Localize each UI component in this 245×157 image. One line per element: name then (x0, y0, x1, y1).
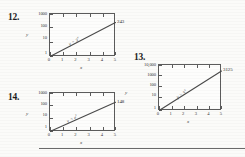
textbook-page: 12. y 1000 100 10 1 (0, 0, 245, 157)
y-tick-label-1-14: 1 (29, 125, 47, 130)
y-tick-label-1-12: 1 (29, 51, 47, 56)
y-tick-label-10-13: 10 (130, 93, 156, 98)
x-tick-label-13-1: 1 (166, 112, 176, 117)
x-tick-label-14-5: 5 (110, 133, 120, 138)
x-tick-label-14-4: 4 (97, 133, 107, 138)
x-tick-label-12-3: 3 (84, 58, 94, 63)
end-value-label-13: 3125 (223, 67, 233, 72)
x-tick-label-12-1: 1 (57, 58, 67, 63)
x-tick-label-14-1: 1 (57, 133, 67, 138)
curve-12 (50, 14, 116, 57)
x-tick-label-12-4: 4 (97, 58, 107, 63)
x-tick-label-13-0: 0 (153, 112, 163, 117)
y-tick-label-10-14: 10 (29, 113, 47, 118)
plot-area-14: y = ex (49, 92, 115, 131)
y-tick-label-1000-14: 1000 (29, 91, 47, 96)
x-tick-label-14-0: 0 (44, 133, 54, 138)
curve-13 (159, 65, 222, 111)
end-value-label-14: 148 (117, 99, 124, 104)
y-tick-label-10-12: 10 (29, 36, 47, 41)
x-tick-label-14-3: 3 (84, 133, 94, 138)
x-tick-label-13-4: 4 (203, 112, 213, 117)
x-tick-label-13-5: 5 (216, 112, 226, 117)
y-tick-label-1-13: 1 (130, 106, 156, 111)
x-tick-label-12-0: 0 (44, 58, 54, 63)
exercise-number-14: 14. (8, 92, 19, 102)
end-value-label-12: 243 (117, 19, 124, 24)
y-axis-title-14: y (26, 111, 28, 116)
y-tick-label-100-12: 100 (29, 24, 47, 29)
footer-rule (39, 148, 245, 149)
plot-area-12: y = 3x (49, 13, 115, 56)
x-axis-title-12: x (80, 65, 82, 70)
figure-14: 14. y 1000 100 10 1 y = ex (0, 80, 124, 140)
y-tick-label-10000-13: 10,000 (130, 63, 156, 68)
x-tick-label-13-3: 3 (191, 112, 201, 117)
curve-14 (50, 93, 116, 132)
x-axis-title-13: x (187, 119, 189, 124)
figure-12: 12. y 1000 100 10 1 (0, 0, 123, 75)
x-tick-label-14-2: 2 (70, 133, 80, 138)
y-tick-label-1000-13: 1000 (130, 73, 156, 78)
x-tick-label-12-5: 5 (110, 58, 120, 63)
y-tick-label-1000-12: 1000 (29, 12, 47, 17)
y-axis-title-13: y (125, 90, 127, 95)
y-tick-label-100-13: 100 (130, 83, 156, 88)
exercise-number-12: 12. (8, 12, 19, 22)
y-axis-title-12: y (26, 32, 28, 37)
exercise-number-13: 13. (134, 52, 145, 62)
y-tick-label-100-14: 100 (29, 102, 47, 107)
x-axis-title-14: x (80, 140, 82, 145)
x-tick-label-13-2: 2 (178, 112, 188, 117)
plot-area-13: y = 5x (158, 64, 221, 110)
figure-13: 13. y 10,000 1000 100 10 1 (124, 48, 245, 143)
x-tick-label-12-2: 2 (70, 58, 80, 63)
